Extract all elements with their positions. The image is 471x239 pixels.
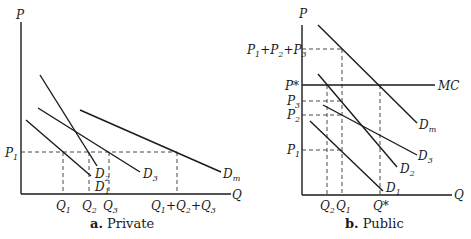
- panel-public: P P1+P2+P3 P* P3 P2 P1 MC Dm D3 D2 D1 Q …: [246, 7, 464, 231]
- public-p1-label: P1: [286, 143, 300, 159]
- private-demand-d1: [26, 120, 91, 176]
- public-y-axis-label: P: [298, 7, 308, 21]
- public-caption: b.Public: [345, 216, 404, 231]
- private-qsum-label: Q1+Q2+Q3: [151, 199, 216, 215]
- public-pstar-label: P*: [284, 79, 299, 93]
- private-q1-label: Q1: [56, 199, 71, 215]
- private-p1-label: P1: [4, 146, 18, 162]
- public-d2-label: D2: [399, 162, 415, 178]
- private-y-axis-label: P: [15, 8, 25, 22]
- private-d3-label: D3: [142, 167, 158, 183]
- public-demand-dm: [318, 25, 417, 123]
- public-d3-label: D3: [417, 149, 433, 165]
- public-p2-label: P2: [286, 108, 300, 124]
- public-demand-d2: [318, 74, 397, 167]
- public-mc-label: MC: [437, 79, 459, 93]
- public-d1-label: D1: [385, 181, 401, 197]
- private-q2-label: Q2: [82, 199, 97, 215]
- public-qstar-label: Q*: [373, 199, 389, 213]
- private-demand-dm: [80, 110, 221, 172]
- panel-private: P P1 D2 D1 D3 Dm Q Q1 Q2 Q3 Q1+Q2+Q3 a.P…: [4, 8, 242, 231]
- private-caption: a.Private: [90, 216, 154, 231]
- private-demand-d2: [40, 75, 97, 166]
- public-psum-label: P1+P2+P3: [246, 43, 307, 59]
- public-q2-label: Q2: [320, 199, 335, 215]
- public-x-axis-label: Q: [454, 188, 464, 202]
- demand-aggregation-diagram: P P1 D2 D1 D3 Dm Q Q1 Q2 Q3 Q1+Q2+Q3 a.P…: [0, 0, 471, 239]
- private-dm-label: Dm: [222, 167, 241, 183]
- private-x-axis-label: Q: [232, 188, 242, 202]
- public-dm-label: Dm: [418, 118, 437, 134]
- private-q3-label: Q3: [103, 199, 118, 215]
- public-q1-label: Q1: [336, 199, 351, 215]
